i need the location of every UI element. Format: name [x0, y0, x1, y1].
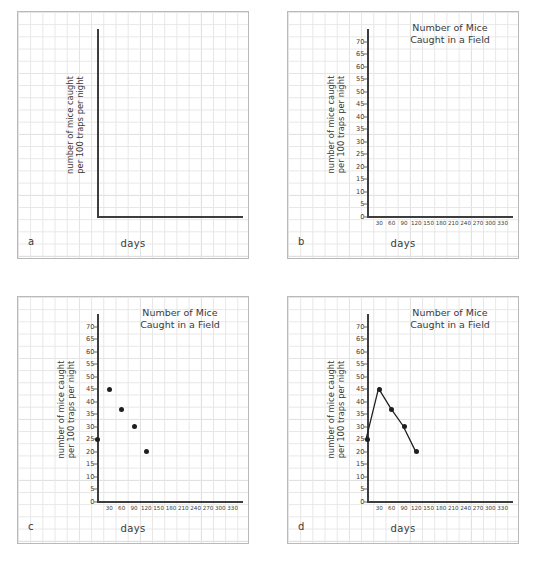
x-tick-label: 300: [215, 505, 226, 511]
data-point: [402, 424, 407, 429]
panel-letter-b: b: [298, 236, 304, 247]
y-tick-label: 60: [356, 348, 367, 356]
plot-area-b: Number of Mice Caught in a Field 0510152…: [288, 12, 518, 258]
x-axis-c: [97, 501, 243, 503]
data-point: [107, 387, 112, 392]
y-tick-label: 30: [356, 423, 367, 431]
data-point: [119, 407, 124, 412]
y-tick-label: 20: [356, 163, 367, 171]
y-tick-label: 30: [356, 138, 367, 146]
x-tick-label: 90: [400, 220, 407, 226]
y-axis-label-b: number of mice caught per 100 traps per …: [326, 42, 346, 207]
y-axis-a: [97, 29, 99, 218]
x-tick-label: 300: [485, 220, 496, 226]
x-tick-label: 120: [141, 505, 152, 511]
x-tick-label: 330: [497, 505, 508, 511]
y-tick-label: 20: [356, 448, 367, 456]
x-axis-label-b: days: [288, 238, 518, 249]
chart-title-c: Number of Mice Caught in a Field: [114, 307, 246, 330]
y-axis-d: [367, 314, 369, 503]
x-tick-label: 300: [485, 505, 496, 511]
x-tick-label: 270: [473, 220, 484, 226]
y-tick-label: 20: [86, 448, 97, 456]
data-point: [377, 387, 382, 392]
y-tick-label: 25: [356, 150, 367, 158]
data-point: [389, 407, 394, 412]
x-tick-label: 240: [460, 220, 471, 226]
x-tick-label: 120: [411, 505, 422, 511]
y-tick-label: 5: [90, 485, 97, 493]
x-tick-label: 120: [411, 220, 422, 226]
y-tick-label: 10: [86, 473, 97, 481]
panel-d: Number of Mice Caught in a Field 0510152…: [287, 296, 519, 544]
y-tick-label: 45: [356, 385, 367, 393]
y-tick-label: 30: [86, 423, 97, 431]
x-tick-label: 90: [130, 505, 137, 511]
y-tick-label: 55: [356, 75, 367, 83]
x-tick-label: 30: [106, 505, 113, 511]
y-tick-label: 45: [86, 385, 97, 393]
chart-title-b: Number of Mice Caught in a Field: [384, 22, 516, 45]
y-tick-label: 60: [86, 348, 97, 356]
x-tick-label: 30: [376, 505, 383, 511]
y-tick-label: 55: [356, 360, 367, 368]
y-tick-label: 50: [86, 373, 97, 381]
x-axis-b: [367, 216, 513, 218]
worksheet-figure: number of mice caught per 100 traps per …: [0, 0, 540, 567]
y-axis-label-d: number of mice caught per 100 traps per …: [326, 327, 346, 492]
x-tick-label: 180: [436, 220, 447, 226]
x-tick-label: 60: [388, 220, 395, 226]
x-tick-label: 150: [423, 220, 434, 226]
data-point: [365, 437, 370, 442]
y-axis-label-a: number of mice caught per 100 traps per …: [65, 50, 85, 200]
x-tick-label: 270: [473, 505, 484, 511]
data-point: [414, 449, 419, 454]
x-tick-label: 60: [118, 505, 125, 511]
x-axis-label-d: days: [288, 523, 518, 534]
x-tick-label: 210: [448, 220, 459, 226]
x-tick-label: 240: [460, 505, 471, 511]
x-tick-label: 150: [153, 505, 164, 511]
y-tick-label: 5: [360, 485, 367, 493]
plot-area-c: Number of Mice Caught in a Field 0510152…: [18, 297, 248, 543]
y-tick-label: 70: [86, 323, 97, 331]
y-tick-label: 15: [86, 460, 97, 468]
x-tick-label: 30: [376, 220, 383, 226]
x-axis-label-a: days: [18, 238, 248, 249]
x-tick-label: 60: [388, 505, 395, 511]
panel-letter-d: d: [298, 521, 304, 532]
y-tick-label: 40: [356, 113, 367, 121]
y-tick-label: 10: [356, 473, 367, 481]
y-tick-label: 15: [356, 175, 367, 183]
x-tick-label: 180: [436, 505, 447, 511]
x-tick-label: 90: [400, 505, 407, 511]
y-tick-label: 10: [356, 188, 367, 196]
plot-area-d: Number of Mice Caught in a Field 0510152…: [288, 297, 518, 543]
x-tick-label: 240: [190, 505, 201, 511]
x-axis-label-c: days: [18, 523, 248, 534]
x-tick-label: 330: [227, 505, 238, 511]
data-point: [132, 424, 137, 429]
y-tick-label: 65: [86, 335, 97, 343]
y-tick-label: 15: [356, 460, 367, 468]
y-tick-label: 0: [360, 498, 367, 506]
panel-a: number of mice caught per 100 traps per …: [17, 11, 249, 259]
y-tick-label: 70: [356, 323, 367, 331]
panel-b: Number of Mice Caught in a Field 0510152…: [287, 11, 519, 259]
x-axis-d: [367, 501, 513, 503]
x-tick-label: 180: [166, 505, 177, 511]
chart-title-d: Number of Mice Caught in a Field: [384, 307, 516, 330]
y-axis-b: [367, 29, 369, 218]
y-axis-c: [97, 314, 99, 503]
y-tick-label: 0: [360, 213, 367, 221]
y-tick-label: 55: [86, 360, 97, 368]
x-tick-label: 210: [448, 505, 459, 511]
y-tick-label: 65: [356, 50, 367, 58]
x-axis-a: [97, 216, 243, 218]
y-tick-label: 60: [356, 63, 367, 71]
data-point: [95, 437, 100, 442]
y-tick-label: 0: [90, 498, 97, 506]
y-axis-label-c: number of mice caught per 100 traps per …: [56, 327, 76, 492]
panel-letter-a: a: [28, 236, 34, 247]
y-tick-label: 45: [356, 100, 367, 108]
